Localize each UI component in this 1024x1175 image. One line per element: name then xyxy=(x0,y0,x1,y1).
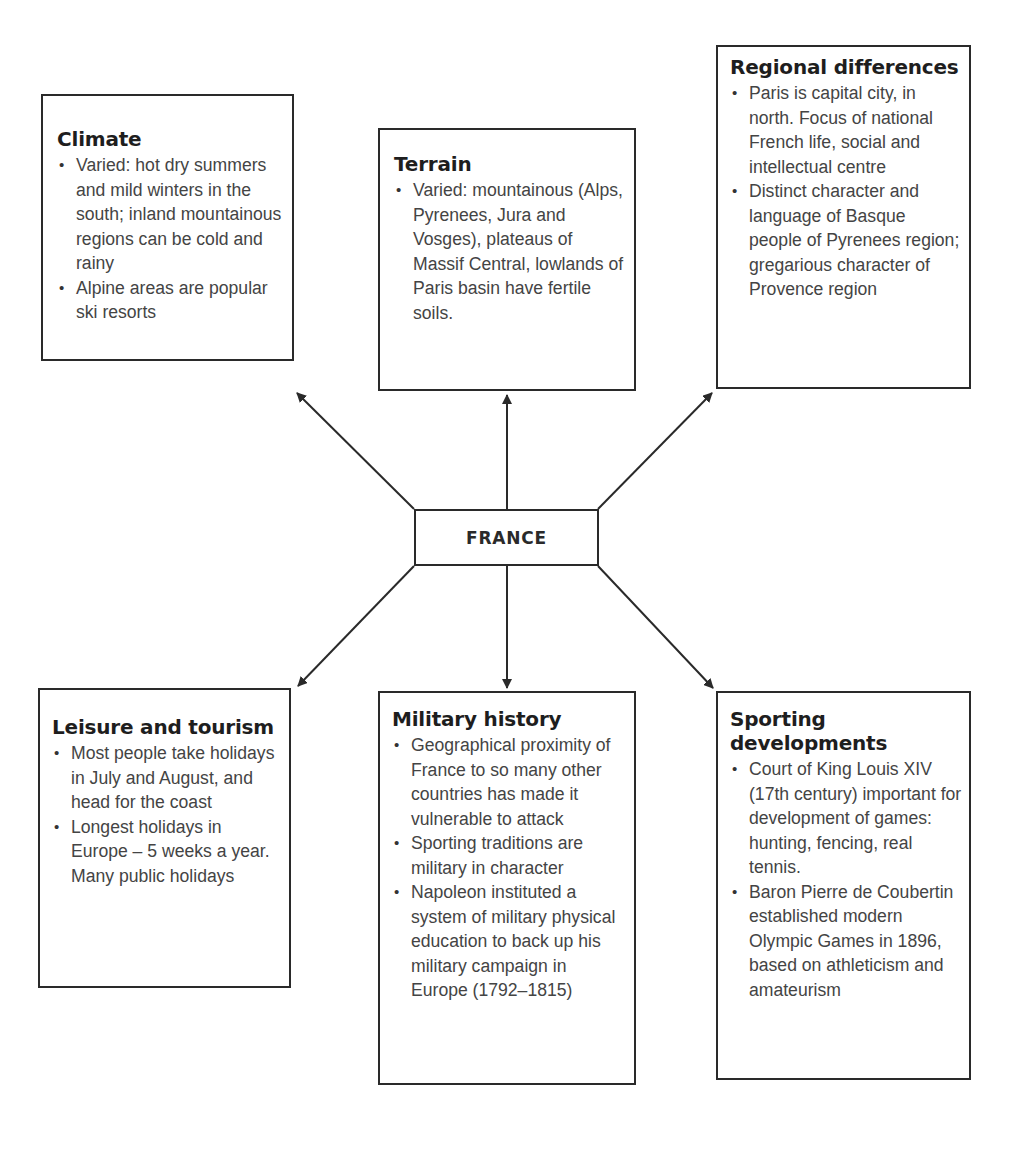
military-history-title: Military history xyxy=(392,707,628,731)
france-label: FRANCE xyxy=(466,528,547,548)
military-history-box: Military history Geographical proximity … xyxy=(378,691,636,1085)
terrain-bullets: Varied: mountainous (Alps, Pyrenees, Jur… xyxy=(394,178,626,325)
leisure-tourism-title: Leisure and tourism xyxy=(52,715,283,739)
regional-differences-title: Regional differences xyxy=(730,55,963,79)
regional-differences-bullet: Paris is capital city, in north. Focus o… xyxy=(730,81,963,179)
regional-differences-bullets: Paris is capital city, in north. Focus o… xyxy=(730,81,963,302)
leisure-tourism-box: Leisure and tourism Most people take hol… xyxy=(38,688,291,988)
climate-bullet: Varied: hot dry summers and mild winters… xyxy=(57,153,284,276)
regional-differences-bullet: Distinct character and language of Basqu… xyxy=(730,179,963,302)
sporting-developments-bullet: Court of King Louis XIV (17th century) i… xyxy=(730,757,963,880)
sporting-developments-box: Sporting developments Court of King Loui… xyxy=(716,691,971,1080)
climate-bullets: Varied: hot dry summers and mild winters… xyxy=(57,153,284,325)
regional-differences-box: Regional differences Paris is capital ci… xyxy=(716,45,971,389)
military-history-bullet: Geographical proximity of France to so m… xyxy=(392,733,628,831)
terrain-box: Terrain Varied: mountainous (Alps, Pyren… xyxy=(378,128,636,391)
terrain-title: Terrain xyxy=(394,152,626,176)
climate-bullet: Alpine areas are popular ski resorts xyxy=(57,276,284,325)
france-center-node: FRANCE xyxy=(414,509,599,566)
military-history-bullet: Napoleon instituted a system of military… xyxy=(392,880,628,1003)
leisure-tourism-bullets: Most people take holidays in July and Au… xyxy=(52,741,283,888)
sporting-developments-bullets: Court of King Louis XIV (17th century) i… xyxy=(730,757,963,1002)
terrain-bullet: Varied: mountainous (Alps, Pyrenees, Jur… xyxy=(394,178,626,325)
sporting-developments-title: Sporting developments xyxy=(730,707,963,755)
arrow-to-sporting xyxy=(598,566,713,688)
climate-box: Climate Varied: hot dry summers and mild… xyxy=(41,94,294,361)
military-history-bullets: Geographical proximity of France to so m… xyxy=(392,733,628,1003)
arrow-to-climate xyxy=(297,393,414,509)
arrow-to-regional xyxy=(598,393,712,509)
leisure-tourism-bullet: Most people take holidays in July and Au… xyxy=(52,741,283,815)
climate-title: Climate xyxy=(57,127,284,151)
arrow-to-leisure xyxy=(298,566,414,686)
leisure-tourism-bullet: Longest holidays in Europe – 5 weeks a y… xyxy=(52,815,283,889)
military-history-bullet: Sporting traditions are military in char… xyxy=(392,831,628,880)
sporting-developments-bullet: Baron Pierre de Coubertin established mo… xyxy=(730,880,963,1003)
